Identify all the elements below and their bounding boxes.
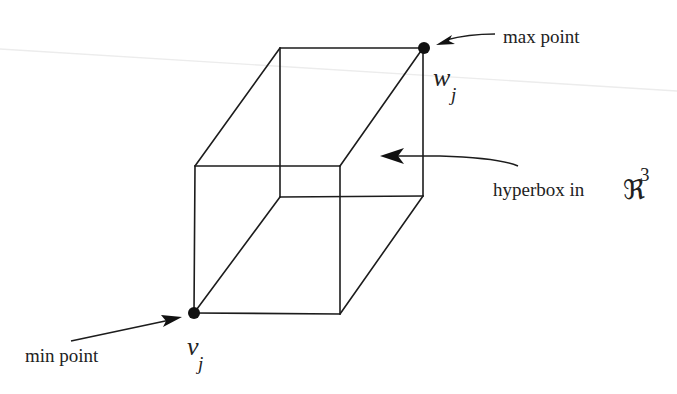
edge-back-bottom: [280, 196, 423, 197]
min-point-dot: [188, 307, 200, 319]
scan-artifact-line: [0, 49, 677, 91]
min-point-label: min point: [25, 345, 99, 366]
max-point-variable: w: [433, 63, 451, 92]
edge-depth-top-left: [195, 48, 280, 166]
edge-front-bottom: [194, 313, 340, 314]
hyperbox-cube: [194, 48, 423, 314]
edge-depth-bottom-left: [194, 197, 280, 313]
hyperbox-arrow: [380, 148, 518, 166]
edge-depth-top-right: [340, 48, 423, 166]
edge-depth-bottom-right: [340, 196, 423, 314]
min-point-arrow: [71, 315, 182, 341]
max-point-label: max point: [503, 26, 580, 47]
hyperbox-diagram: max point w j hyperbox in ℜ 3 min point …: [0, 0, 677, 394]
hyperbox-label: hyperbox in: [493, 179, 585, 200]
max-point-arrow: [436, 34, 495, 45]
max-point-dot: [418, 42, 430, 54]
space-dimension-superscript: 3: [640, 164, 650, 185]
edge-front-left: [194, 166, 195, 313]
